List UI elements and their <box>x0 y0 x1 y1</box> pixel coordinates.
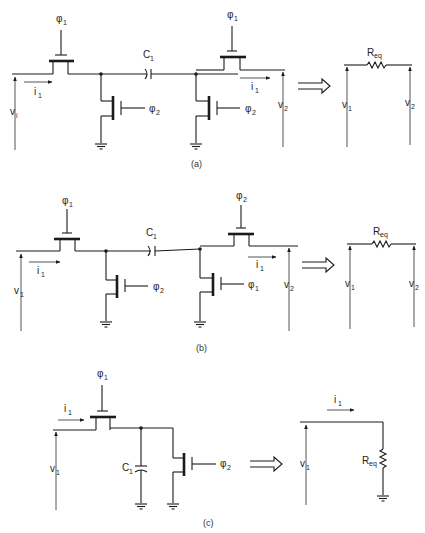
svg-text:1: 1 <box>306 464 310 471</box>
svg-text:2: 2 <box>243 196 247 203</box>
shunt-switch-right <box>194 249 244 327</box>
shunt-switch-right <box>190 74 240 149</box>
svg-text:2: 2 <box>227 464 231 471</box>
svg-text:1: 1 <box>150 55 154 62</box>
caption-c: (c) <box>203 518 214 528</box>
svg-text:1: 1 <box>38 92 42 99</box>
svg-text:2: 2 <box>252 109 256 116</box>
svg-text:φ: φ <box>248 279 255 290</box>
svg-text:1: 1 <box>20 291 24 298</box>
svg-text:v: v <box>10 106 15 117</box>
equivalent-resistor-b <box>347 241 416 247</box>
svg-text:i: i <box>256 259 258 270</box>
series-switch-right <box>220 26 246 70</box>
equivalent-resistor-a <box>344 62 412 68</box>
series-switch-right <box>228 205 254 246</box>
svg-text:2: 2 <box>415 284 419 291</box>
svg-text:φ: φ <box>245 103 252 114</box>
shunt-switch <box>167 428 216 509</box>
svg-text:φ: φ <box>220 458 227 469</box>
panel-a: φ 1 C 1 φ 2 <box>10 9 415 169</box>
svg-text:eq: eq <box>369 460 377 468</box>
svg-text:i: i <box>334 394 336 405</box>
equivalence-arrow <box>250 457 282 471</box>
svg-text:eq: eq <box>374 52 382 60</box>
svg-text:i: i <box>251 81 253 92</box>
svg-text:φ: φ <box>62 195 69 206</box>
svg-text:v: v <box>284 279 289 290</box>
shunt-switch-left <box>100 251 148 327</box>
shunt-switch-left <box>95 74 145 149</box>
svg-text:v: v <box>405 97 410 108</box>
svg-text:v: v <box>300 458 305 469</box>
svg-text:v: v <box>342 99 347 110</box>
svg-text:1: 1 <box>63 19 67 26</box>
svg-text:2: 2 <box>160 287 164 294</box>
equivalence-arrow <box>302 258 334 272</box>
svg-text:2: 2 <box>156 109 160 116</box>
svg-text:v: v <box>14 285 19 296</box>
svg-text:v: v <box>409 278 414 289</box>
svg-text:1: 1 <box>153 233 157 240</box>
svg-text:i: i <box>37 265 39 276</box>
caption-a: (a) <box>191 159 202 169</box>
series-switch-left <box>49 30 74 74</box>
svg-text:φ: φ <box>97 368 104 379</box>
svg-text:1: 1 <box>129 468 133 475</box>
svg-text:φ: φ <box>153 281 160 292</box>
series-switch-left <box>54 209 80 251</box>
svg-text:2: 2 <box>290 285 294 292</box>
svg-text:φ: φ <box>236 190 243 201</box>
caption-b: (b) <box>196 343 207 353</box>
svg-text:i: i <box>34 86 36 97</box>
capacitor-c1-shunt <box>135 428 147 509</box>
svg-text:1: 1 <box>69 201 73 208</box>
svg-text:v: v <box>345 278 350 289</box>
svg-text:φ: φ <box>227 9 234 20</box>
svg-text:1: 1 <box>255 285 259 292</box>
svg-text:φ: φ <box>149 103 156 114</box>
svg-text:eq: eq <box>380 231 388 239</box>
svg-text:1: 1 <box>104 374 108 381</box>
svg-text:2: 2 <box>284 105 288 112</box>
panel-c: φ 1 C 1 φ 2 i 1 v 1 <box>50 368 389 528</box>
panel-b: φ 1 C 1 φ 2 <box>14 190 419 353</box>
svg-text:1: 1 <box>234 15 238 22</box>
svg-text:1: 1 <box>348 105 352 112</box>
svg-text:i: i <box>64 403 66 414</box>
series-switch <box>90 385 116 430</box>
switched-capacitor-figure: φ 1 C 1 φ 2 <box>0 0 425 533</box>
svg-text:1: 1 <box>351 284 355 291</box>
svg-text:1: 1 <box>255 87 259 94</box>
svg-text:v: v <box>278 99 283 110</box>
svg-text:1: 1 <box>68 409 72 416</box>
svg-text:1: 1 <box>56 469 60 476</box>
svg-text:2: 2 <box>411 103 415 110</box>
phi-label: φ <box>56 13 63 24</box>
svg-text:v: v <box>50 463 55 474</box>
svg-text:1: 1 <box>338 400 342 407</box>
svg-text:i: i <box>16 112 18 119</box>
svg-text:1: 1 <box>260 265 264 272</box>
equivalence-arrow <box>298 79 330 93</box>
svg-text:1: 1 <box>41 271 45 278</box>
